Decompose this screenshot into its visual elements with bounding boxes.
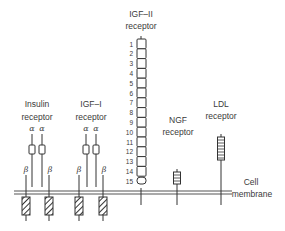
ldl-extracellular-domain [218, 137, 225, 160]
igf2-domain-number: 12 [126, 148, 134, 155]
igf2-repeat-domain [137, 39, 146, 49]
igf2-receptor-label-line1: IGF–II [129, 9, 153, 19]
membrane-label-line2: membrane [232, 189, 273, 199]
igf2-domain-number: 6 [129, 90, 133, 97]
igf1-receptor-label-line2: receptor [75, 112, 106, 122]
igf2-repeat-domain [137, 137, 146, 147]
igf2-domain-number: 10 [126, 129, 134, 136]
ngf-receptor-label-line1: NGF [169, 115, 187, 125]
ldl-receptor-label-line2: receptor [205, 111, 236, 121]
alpha-subunit-box [39, 145, 45, 154]
igf1-receptor-label-line1: IGF–I [80, 99, 101, 109]
igf2-domain-number: 14 [126, 168, 134, 175]
igf2-repeat-domain [137, 157, 146, 167]
igf2-repeat-domain [137, 98, 146, 108]
igf2-domain-number: 15 [126, 178, 134, 185]
igf2-repeat-domain [137, 117, 146, 127]
alpha-subunit-box [29, 145, 35, 154]
beta-symbol: β [76, 165, 82, 174]
ldl-receptor-label-line1: LDL [213, 99, 229, 109]
beta-kinase-domain [45, 197, 53, 215]
alpha-subunit-box [93, 145, 99, 154]
beta-kinase-domain [99, 197, 107, 215]
igf2-repeat-domain [137, 108, 146, 118]
alpha-symbol: α [39, 124, 45, 133]
igf2-domain-number: 7 [129, 99, 133, 106]
beta-kinase-domain [75, 197, 83, 215]
insulin-receptor: Insulin receptor α α β β [21, 99, 53, 221]
igf2-domain-number: 8 [129, 109, 133, 116]
alpha-symbol: α [29, 124, 35, 133]
igf2-domain-stack: 123456789101112131415 [126, 39, 146, 185]
beta-kinase-domain [22, 197, 30, 215]
igf2-domain-number: 1 [129, 41, 133, 48]
insulin-receptor-label-line2: receptor [21, 112, 52, 122]
ngf-receptor-label-line2: receptor [162, 127, 193, 137]
igf2-domain-number: 9 [129, 119, 133, 126]
igf2-repeat-domain [137, 177, 146, 184]
beta-symbol: β [101, 165, 107, 174]
igf2-receptor: IGF–II receptor 123456789101112131415 [125, 9, 156, 205]
alpha-symbol: α [83, 124, 89, 133]
igf2-repeat-domain [137, 127, 146, 137]
igf2-repeat-domain [137, 59, 146, 69]
alpha-subunit-box [83, 145, 89, 154]
receptor-diagram: Cell membrane Insulin receptor α α β β I… [0, 0, 285, 231]
membrane-label-line1: Cell [244, 177, 259, 187]
igf2-repeat-domain [137, 88, 146, 98]
igf2-repeat-domain [137, 166, 146, 176]
igf2-repeat-domain [137, 78, 146, 88]
beta-symbol: β [47, 165, 53, 174]
beta-symbol: β [23, 165, 29, 174]
igf2-repeat-domain [137, 68, 146, 78]
cell-membrane [14, 191, 232, 194]
alpha-symbol: α [93, 124, 99, 133]
insulin-receptor-label-line1: Insulin [25, 99, 50, 109]
igf2-domain-number: 13 [126, 158, 134, 165]
igf2-repeat-domain [137, 147, 146, 157]
igf2-repeat-domain [137, 49, 146, 59]
igf2-domain-number: 2 [129, 50, 133, 57]
igf2-domain-number: 5 [129, 80, 133, 87]
igf2-domain-number: 3 [129, 60, 133, 67]
igf2-domain-number: 11 [126, 139, 133, 146]
igf2-receptor-label-line2: receptor [125, 21, 156, 31]
igf2-domain-number: 4 [129, 70, 133, 77]
igf1-receptor: IGF–I receptor α α β β [75, 99, 107, 221]
